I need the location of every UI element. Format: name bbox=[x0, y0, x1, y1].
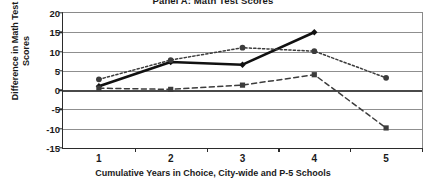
data-point-marker bbox=[311, 48, 317, 54]
y-tick-label: 5 bbox=[55, 65, 60, 76]
data-point-marker bbox=[168, 87, 173, 92]
y-tick-label: -10 bbox=[46, 123, 60, 134]
x-tick-label: 1 bbox=[96, 153, 102, 164]
x-tick-mark bbox=[135, 148, 136, 152]
x-axis-label: Cumulative Years in Choice, City-wide an… bbox=[0, 168, 426, 178]
data-point-marker bbox=[240, 83, 245, 88]
chart-title: Panel A: Math Test Scores bbox=[0, 0, 426, 6]
x-tick-label: 2 bbox=[168, 153, 174, 164]
series-dashed-series bbox=[96, 72, 388, 130]
data-point-marker bbox=[96, 76, 102, 82]
y-tick-label: -15 bbox=[46, 143, 60, 154]
x-tick-mark bbox=[422, 148, 423, 152]
x-tick-label: 5 bbox=[383, 153, 389, 164]
x-tick-label: 4 bbox=[312, 153, 318, 164]
series-line bbox=[99, 32, 314, 86]
chart-figure: Panel A: Math Test Scores Difference in … bbox=[0, 0, 426, 185]
x-tick-mark bbox=[278, 148, 279, 152]
x-tick-label: 3 bbox=[240, 153, 246, 164]
y-tick-label: 20 bbox=[49, 8, 60, 19]
y-axis-label: Difference in Math Test Scores bbox=[10, 0, 32, 106]
y-tick-label: 10 bbox=[49, 46, 60, 57]
y-tick-label: 15 bbox=[49, 27, 60, 38]
data-point-marker bbox=[240, 45, 246, 51]
x-tick-mark bbox=[350, 148, 351, 152]
data-point-marker bbox=[96, 86, 101, 91]
series-solid-series bbox=[96, 29, 318, 89]
data-point-marker bbox=[384, 125, 389, 130]
data-series-layer bbox=[63, 13, 422, 148]
data-point-marker bbox=[312, 72, 317, 77]
plot-area: 20151050-5-10-15 12345 bbox=[62, 12, 423, 149]
x-tick-mark bbox=[207, 148, 208, 152]
data-point-marker bbox=[383, 75, 389, 81]
y-tick-label: 0 bbox=[55, 85, 60, 96]
y-tick-label: -5 bbox=[52, 104, 60, 115]
data-point-marker bbox=[168, 57, 174, 63]
